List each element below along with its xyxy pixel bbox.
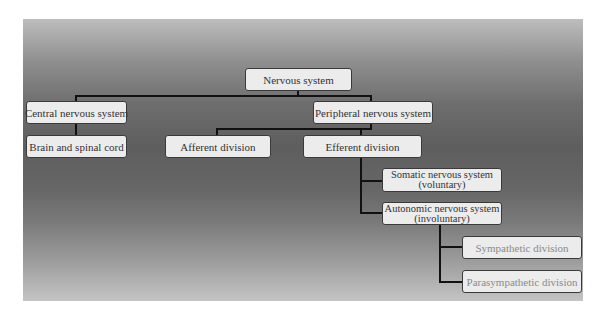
node-sympathetic-division: Sympathetic division bbox=[462, 236, 582, 259]
connector-to-sympathetic bbox=[439, 246, 462, 248]
node-peripheral-nervous-system: Peripheral nervous system bbox=[313, 101, 433, 124]
node-label: Peripheral nervous system bbox=[315, 107, 431, 119]
connector-to-parasympathetic bbox=[439, 281, 462, 283]
node-somatic-nervous-system: Somatic nervous system (voluntary) bbox=[382, 168, 502, 192]
node-afferent-division: Afferent division bbox=[165, 135, 271, 158]
connector-autonomic-trunk bbox=[439, 224, 441, 283]
connector-to-efferent bbox=[360, 128, 362, 135]
node-label: Efferent division bbox=[325, 141, 399, 153]
connector-to-afferent bbox=[216, 128, 218, 135]
node-brain-and-spinal-cord: Brain and spinal cord bbox=[26, 135, 127, 158]
node-central-nervous-system: Central nervous system bbox=[26, 101, 127, 124]
node-label: Nervous system bbox=[263, 74, 334, 86]
node-label: Parasympathetic division bbox=[467, 276, 578, 288]
node-label-line1: Autonomic nervous system bbox=[385, 204, 500, 214]
connector-efferent-trunk bbox=[360, 157, 362, 214]
node-label: Central nervous system bbox=[25, 107, 128, 119]
node-nervous-system: Nervous system bbox=[245, 68, 352, 91]
node-autonomic-nervous-system: Autonomic nervous system (involuntary) bbox=[382, 202, 502, 225]
node-parasympathetic-division: Parasympathetic division bbox=[462, 270, 582, 293]
node-label: Sympathetic division bbox=[475, 242, 568, 254]
node-label: Afferent division bbox=[180, 141, 255, 153]
connector-cns-to-brain bbox=[75, 123, 77, 135]
connector-to-autonomic bbox=[360, 212, 382, 214]
node-label-line2: (voluntary) bbox=[418, 180, 465, 190]
node-label-line2: (involuntary) bbox=[414, 214, 469, 224]
node-efferent-division: Efferent division bbox=[303, 135, 422, 158]
node-label: Brain and spinal cord bbox=[29, 141, 123, 153]
connector-to-somatic bbox=[360, 180, 382, 182]
connector-level2-bar bbox=[216, 128, 372, 130]
connector-level1-bar bbox=[75, 95, 372, 97]
